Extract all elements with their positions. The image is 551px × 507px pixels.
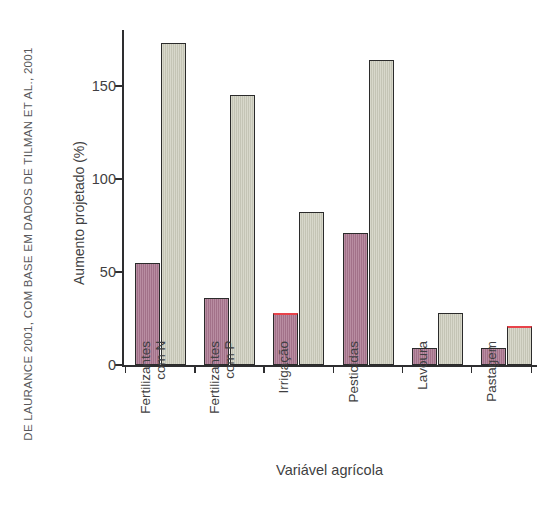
- y-tick-mark: [115, 178, 123, 179]
- x-category-label: Lavoura: [415, 341, 430, 390]
- x-tick-mark: [263, 365, 264, 373]
- y-tick-mark: [115, 364, 123, 365]
- x-tick-mark: [471, 365, 472, 373]
- y-tick-label: 100: [92, 171, 116, 187]
- bar[interactable]: [161, 43, 186, 365]
- x-category-label-line2: com P: [222, 341, 237, 414]
- y-tick-label: 0: [108, 357, 116, 373]
- x-tick-mark: [194, 365, 195, 373]
- bar-group: [412, 30, 463, 365]
- x-category-label-line1: Pesticidas: [346, 341, 361, 403]
- y-tick-mark: [115, 85, 123, 86]
- bar[interactable]: [507, 326, 532, 365]
- x-tick-mark: [333, 365, 334, 373]
- x-category-label: Pesticidas: [346, 341, 361, 403]
- x-category-label: Fertilizantescom N: [138, 341, 168, 414]
- bar-group: [204, 30, 255, 365]
- x-axis-title: Variável agrícola: [122, 462, 537, 478]
- x-tick-mark: [402, 365, 403, 373]
- bar[interactable]: [369, 60, 394, 365]
- bar[interactable]: [299, 212, 324, 365]
- bar-group: [135, 30, 186, 365]
- x-tick-mark: [125, 365, 126, 373]
- x-category-label-line1: Pastagem: [484, 341, 499, 402]
- plot-area: 050100150: [122, 30, 537, 365]
- x-category-label: Irrigação: [276, 341, 291, 394]
- x-axis-line: [122, 365, 537, 367]
- y-axis-line: [122, 30, 124, 365]
- x-category-label-line1: Fertilizantes: [138, 341, 153, 414]
- x-category-label-line1: Irrigação: [276, 341, 291, 394]
- source-credit-text: DE LAURANCE 2001, COM BASE EM DADOS DE T…: [22, 34, 34, 454]
- source-credit: DE LAURANCE 2001, COM BASE EM DADOS DE T…: [0, 0, 46, 507]
- bar[interactable]: [438, 313, 463, 365]
- bar-group: [481, 30, 532, 365]
- bar-group: [343, 30, 394, 365]
- x-category-label-line1: Lavoura: [415, 341, 430, 390]
- bar-chart: Aumento projetado (%) 050100150 Fertiliz…: [46, 0, 551, 507]
- bar[interactable]: [230, 95, 255, 365]
- bar-group: [273, 30, 324, 365]
- y-axis-title: Aumento projetado (%): [71, 108, 87, 318]
- y-tick-label: 150: [92, 78, 116, 94]
- x-category-label: Pastagem: [484, 341, 499, 402]
- y-tick-label: 50: [100, 264, 116, 280]
- y-tick-mark: [115, 271, 123, 272]
- x-category-label: Fertilizantescom P: [207, 341, 237, 414]
- x-category-label-line1: Fertilizantes: [207, 341, 222, 414]
- x-category-label-line2: com N: [153, 341, 168, 414]
- x-tick-mark: [531, 365, 532, 373]
